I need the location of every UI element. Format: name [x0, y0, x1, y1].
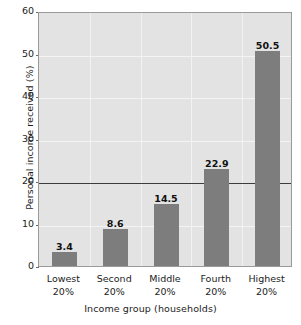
x-tick-label: Middle20% [137, 273, 193, 298]
x-tick-label: Second20% [86, 273, 142, 298]
bar-value-label: 50.5 [240, 40, 291, 51]
bar [154, 204, 179, 266]
x-tick-label-line: 20% [35, 286, 91, 299]
bar-value-label: 3.4 [39, 241, 92, 252]
x-tick-label-line: Highest [248, 273, 284, 284]
bar [52, 252, 77, 266]
x-tick-label-line: 20% [86, 286, 142, 299]
x-tick-label-line: Lowest [47, 273, 80, 284]
bar-value-label: 8.6 [87, 218, 143, 229]
gridline-horizontal [39, 98, 291, 99]
y-tick-label: 10 [4, 218, 34, 229]
y-tick-label: 0 [4, 260, 34, 271]
reference-line-20 [39, 183, 291, 184]
y-tick-mark [36, 267, 39, 268]
x-tick-label-line: Fourth [200, 273, 231, 284]
x-tick-label-line: Second [97, 273, 132, 284]
y-tick-label: 40 [4, 90, 34, 101]
x-tick-label-line: 20% [188, 286, 244, 299]
plot-inner: 3.48.614.522.950.5 [39, 13, 291, 266]
bar [255, 51, 280, 266]
y-tick-label: 20 [4, 175, 34, 186]
x-tick-label-line: 20% [137, 286, 193, 299]
x-tick-label-line: Middle [149, 273, 180, 284]
y-axis-tick-labels: 0102030405060 [2, 0, 34, 325]
bar-value-label: 22.9 [189, 158, 245, 169]
x-tick-label-line: 20% [239, 286, 295, 299]
bar-value-label: 14.5 [138, 193, 194, 204]
y-tick-label: 60 [4, 5, 34, 16]
y-tick-label: 30 [4, 133, 34, 144]
x-tick-label: Fourth20% [188, 273, 244, 298]
plot-area: 3.48.614.522.950.5 [38, 12, 292, 267]
bar [204, 169, 229, 266]
gridline-vertical [191, 13, 192, 266]
x-tick-label: Lowest20% [35, 273, 91, 298]
gridline-horizontal [39, 56, 291, 57]
y-tick-label: 50 [4, 48, 34, 59]
x-tick-label: Highest20% [239, 273, 295, 298]
gridline-horizontal [39, 141, 291, 142]
x-axis-title: Income group (households) [0, 303, 301, 314]
bar-chart-figure: Personal income received (%) 01020304050… [0, 0, 301, 325]
bar [103, 229, 128, 266]
